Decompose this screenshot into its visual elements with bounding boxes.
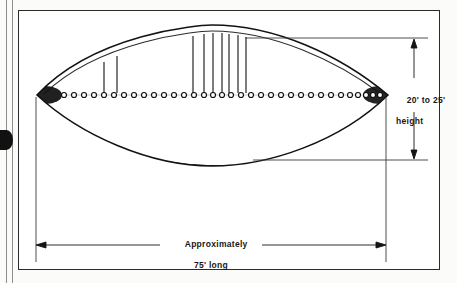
page-binding-mark: [0, 130, 13, 150]
length-dimension-label: Approximately 75' long: [163, 228, 259, 283]
height-dimension-label: 20' to 25' height: [396, 84, 445, 148]
length-dimension-value: 75' long: [163, 260, 259, 271]
height-dimension-unit: height: [396, 116, 445, 127]
height-dimension-value: 20' to 25': [407, 95, 446, 105]
length-dimension-qualifier: Approximately: [185, 239, 248, 249]
figure-root: 20' to 25' height Approximately 75' long: [0, 0, 457, 283]
